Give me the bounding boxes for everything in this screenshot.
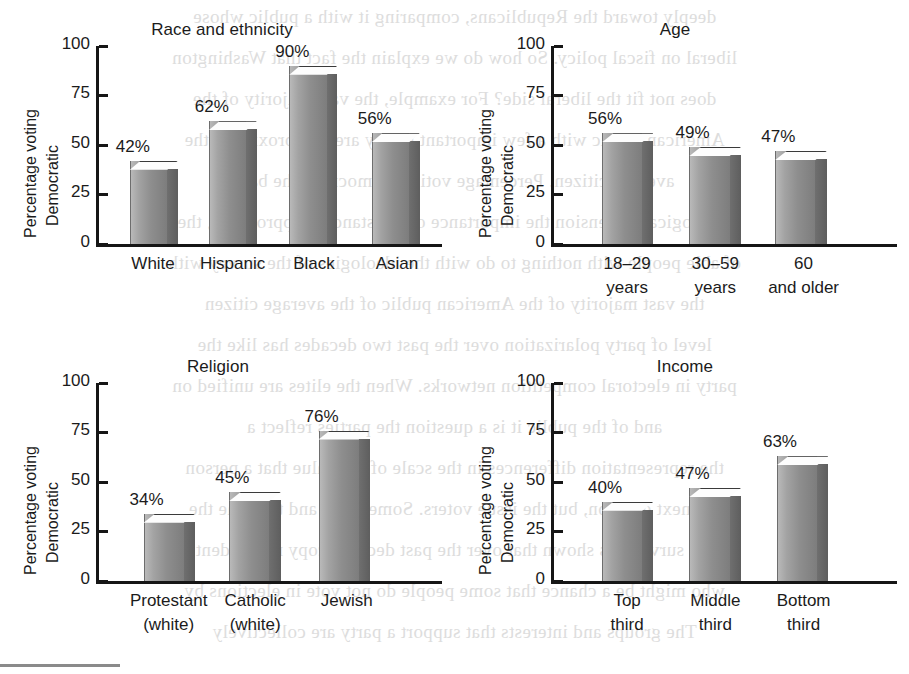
bar-value-label: 42% — [116, 137, 150, 157]
bar: 45% — [229, 492, 280, 581]
chart-panel-religion: Religion Percentage voting Democratic 10… — [0, 337, 454, 674]
bar: 63% — [777, 456, 828, 581]
y-axis-tick-label: 50 — [526, 133, 545, 153]
x-axis-category-label-line: Bottom — [739, 589, 869, 613]
y-axis-tick-label: 50 — [526, 470, 545, 490]
x-axis-category-label-line: (white) — [190, 613, 320, 637]
bar-side-face — [642, 510, 653, 581]
bar-slot: 63% — [777, 383, 828, 581]
x-axis-line — [551, 581, 897, 584]
y-axis-tick-label: 25 — [71, 519, 90, 539]
y-axis-title-line1: Percentage voting — [477, 446, 495, 575]
y-axis-title-line2: Democratic — [499, 145, 517, 226]
bar-slot: 34% — [144, 383, 195, 581]
bar-side-face — [817, 464, 828, 581]
bar-front-face — [319, 431, 359, 581]
bar: 40% — [602, 502, 653, 581]
y-axis-title-religion: Percentage voting Democratic — [6, 385, 50, 577]
y-axis-tick-label: 50 — [71, 133, 90, 153]
bar: 76% — [319, 431, 370, 581]
bar-value-label: 34% — [130, 490, 164, 510]
bar-front-face — [130, 161, 167, 244]
bar-slot: 45% — [229, 383, 280, 581]
bar: 42% — [130, 161, 178, 244]
page-rule-artifact — [0, 664, 120, 667]
bar-value-label: 40% — [588, 478, 622, 498]
y-axis-title-race: Percentage voting Democratic — [6, 48, 50, 240]
bar-value-label: 56% — [588, 109, 622, 129]
bar-slot: 42% — [130, 46, 178, 244]
bar-group-income: 40%47%63% — [554, 383, 897, 581]
bar-front-face — [144, 514, 184, 581]
bar-slot: 76% — [319, 383, 370, 581]
y-axis-title-line2: Democratic — [499, 482, 517, 563]
plot-area-age: 100755025056%49%47% — [551, 46, 897, 247]
bar: 47% — [775, 151, 826, 244]
bar-front-face — [689, 147, 729, 244]
y-axis-title-age: Percentage voting Democratic — [461, 48, 505, 240]
bar: 56% — [372, 133, 420, 244]
bar-value-label: 63% — [763, 432, 797, 452]
x-axis-category-label-line: 60 — [739, 252, 869, 276]
bar-front-face — [209, 121, 246, 244]
bar-value-label: 49% — [675, 123, 709, 143]
bar-value-label: 47% — [675, 464, 709, 484]
figure-four-bar-charts: Race and ethnicity Percentage voting Dem… — [0, 0, 909, 674]
bar-front-face — [602, 502, 642, 581]
bar-side-face — [167, 169, 178, 244]
y-axis-tick-label: 25 — [71, 182, 90, 202]
x-axis-category-label: 60and older — [739, 252, 869, 300]
y-axis-tick-label: 75 — [526, 83, 545, 103]
y-axis-title-line1: Percentage voting — [22, 109, 40, 238]
x-axis-category-label: Asian — [342, 252, 452, 276]
plot-area-religion: 100755025034%45%76% — [96, 383, 442, 584]
bar-side-face — [815, 159, 826, 244]
chart-panel-race: Race and ethnicity Percentage voting Dem… — [0, 0, 454, 337]
bar-front-face — [602, 133, 642, 244]
y-axis-tick-label: 100 — [517, 371, 545, 391]
y-axis-tick-label: 100 — [62, 34, 90, 54]
bar: 56% — [602, 133, 653, 244]
x-axis-labels-race: WhiteHispanicBlackAsian — [96, 252, 442, 312]
bar-group-race: 42%62%90%56% — [99, 46, 442, 244]
bar-side-face — [359, 439, 370, 581]
y-axis-title-income: Percentage voting Democratic — [461, 385, 505, 577]
bar: 62% — [209, 121, 257, 244]
bar-side-face — [409, 141, 420, 244]
bar-front-face — [689, 488, 729, 581]
bar-value-label: 45% — [215, 468, 249, 488]
y-axis-title-line1: Percentage voting — [22, 446, 40, 575]
x-axis-labels-religion: Protestant(white)Catholic(white)Jewish — [96, 589, 442, 649]
bar-slot: 47% — [775, 46, 826, 244]
bar: 49% — [689, 147, 740, 244]
bar-slot: 49% — [689, 46, 740, 244]
bar-side-face — [269, 500, 280, 581]
x-axis-category-label-line: and older — [739, 276, 869, 300]
bar-side-face — [246, 129, 257, 244]
x-axis-line — [96, 244, 442, 247]
bar-side-face — [642, 141, 653, 244]
y-axis-title-line2: Democratic — [44, 145, 62, 226]
bar-value-label: 76% — [305, 407, 339, 427]
y-axis-tick-label: 0 — [536, 232, 545, 252]
bar-front-face — [289, 66, 326, 244]
bar-slot: 56% — [602, 46, 653, 244]
bar-slot: 56% — [372, 46, 420, 244]
bar: 90% — [289, 66, 337, 244]
bar-slot: 62% — [209, 46, 257, 244]
y-axis-title-line1: Percentage voting — [477, 109, 495, 238]
chart-panel-income: Income Percentage voting Democratic 1007… — [455, 337, 909, 674]
y-axis-tick-label: 100 — [517, 34, 545, 54]
x-axis-category-label: Bottomthird — [739, 589, 869, 637]
x-axis-category-label: Jewish — [287, 589, 407, 613]
bar-slot: 47% — [689, 383, 740, 581]
y-axis-tick-label: 0 — [81, 569, 90, 589]
bar-front-face — [775, 151, 815, 244]
bar-side-face — [730, 155, 741, 244]
bar-value-label: 90% — [275, 42, 309, 62]
x-axis-labels-age: 18–29years30–59years60and older — [551, 252, 897, 312]
chart-panel-age: Age Percentage voting Democratic 1007550… — [455, 0, 909, 337]
bar-front-face — [777, 456, 817, 581]
plot-area-income: 100755025040%47%63% — [551, 383, 897, 584]
bar-group-religion: 34%45%76% — [99, 383, 442, 581]
